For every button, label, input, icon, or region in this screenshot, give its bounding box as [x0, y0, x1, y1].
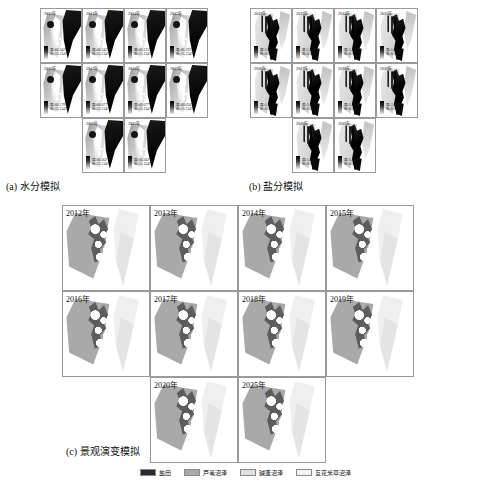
colorbar-icon — [170, 101, 174, 114]
map-cell-a-2012年[interactable]: 2012年高:66.342%低:15.134% — [40, 8, 82, 63]
value-range-legend: 高:66.077%低:15.134% — [86, 101, 110, 114]
map-cell-c-2014年[interactable]: 2014年 — [238, 205, 326, 291]
colorbar-icon — [380, 46, 384, 59]
legend-item-3[interactable]: 互花米草沼泽 — [296, 468, 351, 477]
map-thumbnail — [239, 378, 325, 462]
colorbar-icon — [254, 101, 258, 114]
panel-salinity-simulation: 2012年高:1.438%低:0.001%2013年高:1.438%低:0.00… — [250, 8, 420, 173]
stat-low-value: 低:0.001% — [386, 53, 402, 57]
panel-c-caption: (c) 景观演变模拟 — [66, 443, 140, 458]
landscape-legend: 盐田芦苇沼泽碱蓬沼泽互花米草沼泽 — [0, 468, 490, 477]
value-range-legend: 高:1.438%低:0.001% — [296, 46, 318, 59]
map-region-c-sued — [177, 221, 203, 266]
year-label: 2020年 — [86, 120, 98, 126]
map-thumbnail — [327, 292, 413, 376]
value-range-legend: 高:1.438%低:0.001% — [338, 46, 360, 59]
map-cell-b-2014年[interactable]: 2014年高:1.438%低:0.001% — [334, 8, 376, 63]
map-cell-c-2016年[interactable]: 2016年 — [62, 291, 150, 377]
map-thumbnail — [151, 292, 237, 376]
legend-item-2[interactable]: 碱蓬沼泽 — [240, 468, 283, 477]
map-cell-b-2017年[interactable]: 2017年高:1.438%低:0.001% — [292, 63, 334, 118]
legend-item-0[interactable]: 盐田 — [140, 468, 171, 477]
year-label: 2014年 — [128, 10, 140, 16]
stat-low-value: 低:15.134% — [134, 163, 152, 167]
map-cell-c-2015年[interactable]: 2015年 — [326, 205, 414, 291]
map-cell-a-2013年[interactable]: 2013年高:66.342%低:15.134% — [82, 8, 124, 63]
stat-low-value: 低:15.134% — [50, 108, 68, 112]
grid-spacer — [250, 118, 292, 173]
colorbar-icon — [296, 101, 300, 114]
map-cell-c-2017年[interactable]: 2017年 — [150, 291, 238, 377]
map-cell-c-2020年[interactable]: 2020年 — [150, 377, 238, 463]
stat-low-value: 低:15.134% — [92, 163, 110, 167]
value-range-legend: 高:66.077%低:15.134% — [128, 101, 152, 114]
map-thumbnail — [151, 206, 237, 290]
value-range-legend: 高:1.438%低:0.001% — [254, 101, 276, 114]
year-label: 2013年 — [86, 10, 98, 16]
map-cell-a-2016年[interactable]: 2016年高:66.179%低:15.134% — [40, 63, 82, 118]
stat-low-value: 低:0.001% — [302, 108, 318, 112]
map-cell-b-2015年[interactable]: 2015年高:1.438%低:0.001% — [376, 8, 418, 63]
map-cell-a-2025年[interactable]: 2025年高:66.562%低:15.134% — [124, 118, 166, 173]
legend-item-1[interactable]: 芦苇沼泽 — [184, 468, 227, 477]
legend-label: 互花米草沼泽 — [315, 468, 351, 477]
map-cell-a-2020年[interactable]: 2020年高:66.562%低:15.134% — [82, 118, 124, 173]
map-cell-c-2025年[interactable]: 2025年 — [238, 377, 326, 463]
colorbar-icon — [86, 101, 90, 114]
year-label: 2012年 — [66, 207, 90, 218]
value-range-legend: 高:1.438%低:0.001% — [338, 101, 360, 114]
map-cell-b-2019年[interactable]: 2019年高:1.438%低:0.001% — [376, 63, 418, 118]
colorbar-icon — [296, 46, 300, 59]
value-range-legend: 高:66.195%低:15.134% — [170, 46, 194, 59]
colorbar-icon — [380, 101, 384, 114]
year-label: 2013年 — [154, 207, 178, 218]
map-cell-c-2013年[interactable]: 2013年 — [150, 205, 238, 291]
panel-a-caption: (a) 水分模拟 — [6, 178, 60, 193]
stat-low-value: 低:0.001% — [386, 108, 402, 112]
map-cell-c-2018年[interactable]: 2018年 — [238, 291, 326, 377]
map-cell-b-2018年[interactable]: 2018年高:1.438%低:0.001% — [334, 63, 376, 118]
value-range-legend: 高:66.342%低:15.134% — [86, 46, 110, 59]
map-cell-a-2017年[interactable]: 2017年高:66.077%低:15.134% — [82, 63, 124, 118]
legend-label: 芦苇沼泽 — [203, 468, 227, 477]
map-cell-a-2019年[interactable]: 2019年高:66.034%低:15.134% — [166, 63, 208, 118]
year-label: 2014年 — [242, 207, 266, 218]
map-cell-b-2012年[interactable]: 2012年高:1.438%低:0.001% — [250, 8, 292, 63]
map-thumbnail — [151, 378, 237, 462]
map-cell-a-2015年[interactable]: 2015年高:66.195%低:15.134% — [166, 8, 208, 63]
value-range-legend: 高:1.438%低:0.001% — [380, 46, 402, 59]
map-cell-b-2020年[interactable]: 2020年高:1.438%低:0.001% — [292, 118, 334, 173]
legend-swatch-icon — [296, 469, 312, 476]
map-cell-a-2018年[interactable]: 2018年高:66.077%低:15.134% — [124, 63, 166, 118]
colorbar-icon — [254, 46, 258, 59]
map-region-c-sued — [353, 307, 379, 352]
stat-low-value: 低:15.134% — [134, 53, 152, 57]
figure-root: 2012年高:66.342%低:15.134%2013年高:66.342%低:1… — [0, 0, 490, 497]
map-cell-c-2019年[interactable]: 2019年 — [326, 291, 414, 377]
map-cell-b-2013年[interactable]: 2013年高:1.438%低:0.001% — [292, 8, 334, 63]
panel-landscape-evolution: 2012年2013年2014年2015年2016年2017年2018年2019年… — [62, 205, 414, 463]
value-range-legend: 高:1.438%低:0.001% — [296, 156, 318, 169]
colorbar-icon — [44, 101, 48, 114]
year-label: 2020年 — [154, 379, 178, 390]
map-cell-b-2016年[interactable]: 2016年高:1.438%低:0.001% — [250, 63, 292, 118]
stat-low-value: 低:15.134% — [92, 53, 110, 57]
map-thumbnail — [239, 206, 325, 290]
map-region-c-sued — [177, 307, 203, 352]
map-cell-a-2014年[interactable]: 2014年高:66.235%低:15.134% — [124, 8, 166, 63]
map-cell-c-2012年[interactable]: 2012年 — [62, 205, 150, 291]
year-label: 2025年 — [242, 379, 266, 390]
stat-low-value: 低:0.001% — [302, 53, 318, 57]
colorbar-icon — [338, 101, 342, 114]
legend-swatch-icon — [240, 469, 256, 476]
map-thumbnail — [239, 292, 325, 376]
value-range-legend: 高:1.438%低:0.001% — [254, 46, 276, 59]
year-label: 2018年 — [338, 65, 350, 71]
year-label: 2015年 — [330, 207, 354, 218]
map-cell-b-2025年[interactable]: 2025年高:1.438%低:0.001% — [334, 118, 376, 173]
legend-label: 碱蓬沼泽 — [259, 468, 283, 477]
legend-swatch-icon — [140, 469, 156, 476]
grid-spacer — [376, 118, 418, 173]
year-label: 2015年 — [170, 10, 182, 16]
stat-low-value: 低:15.134% — [176, 53, 194, 57]
